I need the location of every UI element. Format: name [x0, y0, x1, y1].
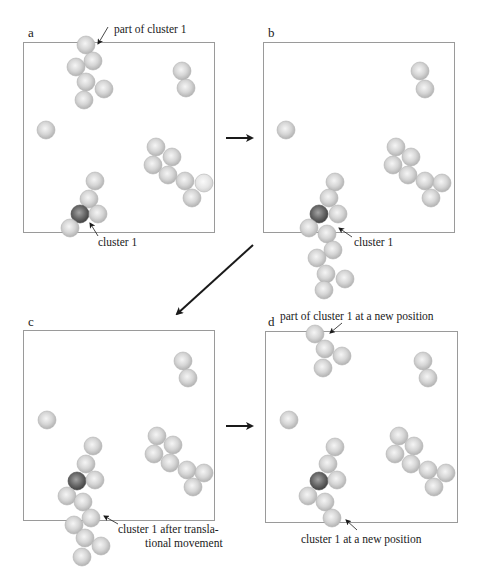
particle-part-of-cluster-1	[333, 347, 351, 365]
particle-single	[277, 121, 295, 139]
particle-cluster-right	[178, 461, 196, 479]
panel-d: dpart of cluster 1 at a new positionclus…	[266, 310, 458, 546]
particle-cluster-right	[399, 166, 417, 184]
particle-pair	[416, 80, 434, 98]
particle-pair	[419, 369, 437, 387]
annotation: cluster 1 at a new position	[301, 520, 422, 546]
particle-cluster-1	[336, 270, 354, 288]
particle-cluster-right	[402, 455, 420, 473]
particle-cluster-right	[390, 427, 408, 445]
particle-part-of-cluster-1	[306, 325, 324, 343]
particle-part-of-cluster-1	[75, 91, 93, 109]
particle-part-of-cluster-1	[67, 58, 85, 76]
particle-cluster-right	[425, 478, 443, 496]
pointer-arrow-icon	[90, 223, 98, 236]
annotation: cluster 1	[339, 228, 394, 248]
particle-cluster-1	[324, 241, 342, 259]
particle-cluster-1	[308, 249, 326, 267]
particle-cluster-1	[316, 493, 334, 511]
particle-cluster-right	[437, 464, 455, 482]
particle-cluster-1	[329, 205, 347, 223]
particle-cluster-1	[323, 509, 341, 527]
particle-cluster-1	[77, 455, 95, 473]
particle-cluster-right	[419, 461, 437, 479]
panel-a: apart of cluster 1cluster 1	[24, 23, 215, 248]
panel-letter: a	[28, 25, 34, 40]
particle-cluster-right	[145, 445, 163, 463]
particle-cluster-1	[315, 281, 333, 299]
particles	[277, 62, 451, 299]
panel-letter: c	[28, 314, 34, 329]
particle-cluster-right	[161, 454, 179, 472]
annotation-label: cluster 1 at a new position	[301, 533, 422, 546]
panel-letter: b	[268, 25, 275, 40]
particle-pair	[174, 352, 192, 370]
particle-cluster-1	[300, 219, 318, 237]
particle-single	[37, 121, 55, 139]
particle-part-of-cluster-1	[77, 36, 95, 54]
particle-cluster-1	[92, 537, 110, 555]
pointer-arrow-icon	[98, 27, 108, 44]
particle-cluster-right	[384, 156, 402, 174]
reference-particle	[68, 472, 86, 490]
annotation: cluster 1	[90, 223, 138, 248]
particle-cluster-right	[386, 445, 404, 463]
particle-cluster-right	[405, 437, 423, 455]
particle-pair	[411, 62, 429, 80]
particle-cluster-1	[328, 471, 346, 489]
particle-cluster-1	[320, 189, 338, 207]
particle-part-of-cluster-1	[84, 52, 102, 70]
annotation-label: cluster 1 after transla-	[118, 523, 219, 535]
particle-cluster-right	[387, 138, 405, 156]
panel-letter: d	[268, 314, 275, 329]
particle-cluster-right	[402, 148, 420, 166]
annotation: part of cluster 1 at a new position	[280, 310, 434, 333]
particle-cluster-1	[84, 437, 102, 455]
particle-cluster-1	[82, 509, 100, 527]
particle-single	[280, 411, 298, 429]
particle-pair	[179, 369, 197, 387]
panel-b: bcluster 1	[264, 25, 455, 299]
reference-particle	[310, 472, 328, 490]
annotation: part of cluster 1	[98, 23, 187, 44]
particle-cluster-1	[58, 487, 76, 505]
pointer-arrow-icon	[346, 520, 357, 530]
particle-cluster-right	[416, 172, 434, 190]
particle-cluster-1	[317, 265, 335, 283]
particle-cluster-right	[159, 166, 177, 184]
particle-cluster-right	[433, 174, 451, 192]
particle-part-of-cluster-1	[314, 359, 332, 377]
particle-cluster-right	[184, 478, 202, 496]
particle-cluster-1	[76, 529, 94, 547]
particle-cluster-1	[299, 487, 317, 505]
particle-cluster-right	[195, 174, 213, 192]
panel-c: ccluster 1 after transla-tional movement	[24, 314, 224, 566]
particle-cluster-1	[319, 455, 337, 473]
particle-cluster-right	[148, 427, 166, 445]
particle-cluster-1	[318, 225, 336, 243]
annotation-label-line2: tional movement	[145, 537, 223, 549]
particles	[37, 36, 213, 237]
particle-cluster-right	[422, 189, 440, 207]
particle-cluster-right	[176, 172, 194, 190]
particle-cluster-right	[163, 148, 181, 166]
particle-cluster-right	[147, 138, 165, 156]
particle-single	[38, 411, 56, 429]
annotation-label: part of cluster 1 at a new position	[280, 310, 434, 323]
particle-cluster-right	[144, 156, 162, 174]
particle-cluster-1	[74, 493, 92, 511]
particle-cluster-1	[86, 471, 104, 489]
particle-cluster-1	[86, 172, 104, 190]
annotation-label: cluster 1	[354, 236, 394, 248]
particle-pair	[414, 352, 432, 370]
particle-pair	[177, 79, 195, 97]
particle-pair	[173, 62, 191, 80]
particles	[280, 325, 455, 527]
particle-cluster-1	[326, 438, 344, 456]
cluster-movement-diagram: apart of cluster 1cluster 1bcluster 1ccl…	[0, 0, 478, 581]
particle-part-of-cluster-1	[316, 340, 334, 358]
particle-cluster-right	[164, 436, 182, 454]
particle-cluster-1	[326, 173, 344, 191]
particle-cluster-1	[73, 548, 91, 566]
particle-part-of-cluster-1	[77, 73, 95, 91]
